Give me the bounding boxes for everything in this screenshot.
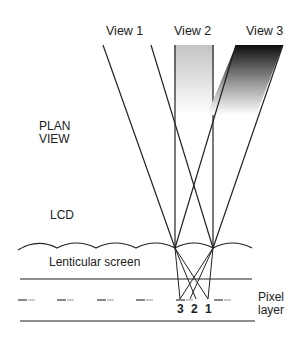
- plan-view-label-line2: VIEW: [39, 133, 70, 146]
- lcd-label: LCD: [50, 209, 74, 222]
- pixel-number-3: 3: [177, 302, 184, 316]
- view-2-beam: [174, 45, 214, 248]
- pixel-number-1: 1: [205, 302, 212, 316]
- lenticular-arcs: [18, 243, 252, 250]
- lenticular-diagram: View 1 View 2 View 3 PLAN VIEW LCD Lenti…: [0, 0, 305, 343]
- lenticular-screen-label: Lenticular screen: [49, 256, 140, 269]
- view-2-label: View 2: [174, 25, 211, 38]
- refraction-rays: [175, 248, 213, 299]
- view-1-label: View 1: [106, 25, 143, 38]
- pixel-number-2: 2: [191, 302, 198, 316]
- view-3-label: View 3: [246, 25, 283, 38]
- pixel-layer-label-line2: layer: [258, 304, 284, 317]
